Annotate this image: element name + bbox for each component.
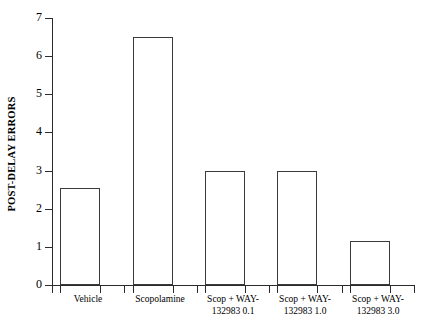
y-axis-tick-6 (45, 56, 52, 57)
x-axis-bar-edge-tick (317, 286, 318, 293)
x-axis-category-label-line: Scop + WAY- (269, 294, 341, 306)
x-axis-category-label: Vehicle (52, 294, 124, 306)
bar (277, 171, 317, 285)
y-axis-tick-label: 6 (12, 48, 42, 63)
y-axis-tick-label: 2 (12, 201, 42, 216)
bar (133, 37, 173, 285)
bar-chart: POST-DELAY ERRORS 01234567 VehicleScopol… (0, 0, 427, 330)
x-axis-bar-edge-tick (277, 286, 278, 293)
x-axis-boundary-tick (197, 286, 198, 293)
x-axis-boundary-tick (124, 286, 125, 293)
y-axis-tick-label: 3 (12, 163, 42, 178)
y-axis-tick-label: 5 (12, 86, 42, 101)
x-axis-bar-edge-tick (350, 286, 351, 293)
x-axis-bar-edge-tick (173, 286, 174, 293)
bar (350, 241, 390, 285)
x-axis-category-label-line: Vehicle (52, 294, 124, 306)
x-axis-bar-edge-tick (205, 286, 206, 293)
y-axis-tick-7 (45, 18, 52, 19)
x-axis-category-label: Scop + WAY-132983 0.1 (197, 294, 269, 317)
x-axis-category-label: Scopolamine (124, 294, 196, 306)
y-axis-tick-label: 4 (12, 124, 42, 139)
y-axis-tick-label: 7 (12, 10, 42, 25)
x-axis-category-label-line: Scopolamine (124, 294, 196, 306)
y-axis-tick-3 (45, 171, 52, 172)
y-axis-tick-label: 1 (12, 239, 42, 254)
x-axis-category-label: Scop + WAY-132983 1.0 (269, 294, 341, 317)
x-axis-category-label-line: 132983 3.0 (342, 306, 414, 318)
y-axis-line (52, 18, 53, 286)
x-axis-bar-edge-tick (245, 286, 246, 293)
y-axis-tick-5 (45, 94, 52, 95)
y-axis-tick-4 (45, 132, 52, 133)
x-axis-category-label-line: Scop + WAY- (197, 294, 269, 306)
bar (60, 188, 100, 285)
x-axis-category-label: Scop + WAY-132983 3.0 (342, 294, 414, 317)
x-axis-line (52, 285, 415, 286)
x-axis-boundary-tick (269, 286, 270, 293)
y-axis-tick-2 (45, 209, 52, 210)
x-axis-category-label-line: Scop + WAY- (342, 294, 414, 306)
x-axis-boundary-tick (342, 286, 343, 293)
x-axis-bar-edge-tick (390, 286, 391, 293)
x-axis-category-label-line: 132983 0.1 (197, 306, 269, 318)
x-axis-boundary-tick (414, 286, 415, 293)
x-axis-bar-edge-tick (100, 286, 101, 293)
y-axis-tick-0 (45, 285, 52, 286)
x-axis-bar-edge-tick (60, 286, 61, 293)
x-axis-boundary-tick (52, 286, 53, 293)
x-axis-bar-edge-tick (133, 286, 134, 293)
y-axis-tick-1 (45, 247, 52, 248)
x-axis-category-label-line: 132983 1.0 (269, 306, 341, 318)
y-axis-tick-label: 0 (12, 277, 42, 292)
bar (205, 171, 245, 285)
